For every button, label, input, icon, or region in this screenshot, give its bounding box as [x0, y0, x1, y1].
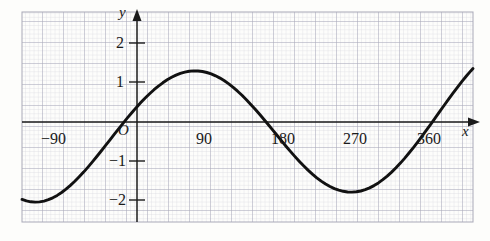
- x-tick-label-180: 180: [271, 131, 295, 147]
- x-tick-label-minus90: −90: [41, 131, 66, 147]
- y-tick-label-minus2: −2: [109, 192, 126, 208]
- y-axis-label: y: [119, 5, 126, 20]
- x-tick-label-270: 270: [343, 131, 367, 147]
- x-axis-label: x: [462, 124, 469, 139]
- graph-figure: y x O −90 90 180 270 360 2 1 −1 −2: [0, 0, 490, 241]
- x-tick-label-360: 360: [417, 131, 441, 147]
- x-tick-label-90: 90: [196, 131, 212, 147]
- y-tick-label-minus1: −1: [109, 153, 126, 169]
- grid-layer: [22, 12, 473, 222]
- y-tick-label-2: 2: [116, 35, 124, 51]
- origin-label: O: [118, 123, 129, 138]
- y-tick-label-1: 1: [116, 74, 124, 90]
- graph-canvas: [0, 0, 490, 241]
